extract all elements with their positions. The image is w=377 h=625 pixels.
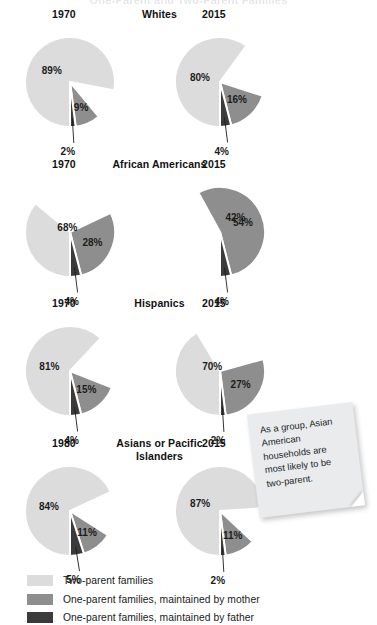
legend-item: Two-parent families bbox=[27, 572, 367, 589]
row-header: 1970Hispanics2015 bbox=[12, 297, 317, 321]
year-label-left: 1970 bbox=[52, 158, 76, 170]
group-name-label: Whites bbox=[107, 8, 212, 21]
pie-chart-container: 81%15%4% bbox=[18, 321, 150, 433]
pie-label-mother: 15% bbox=[76, 384, 96, 395]
legend-label: Two-parent families bbox=[63, 575, 153, 586]
pie-label-two-parent: 81% bbox=[39, 361, 59, 372]
legend: Two-parent familiesOne-parent families, … bbox=[27, 572, 367, 625]
pie-chart: 81%15%4% bbox=[18, 321, 150, 433]
pie-chart: 89%9%2% bbox=[18, 32, 150, 144]
chart-row: 1970Whites201589%9%2%80%16%4% bbox=[0, 8, 377, 142]
legend-swatch-mother bbox=[27, 594, 53, 605]
pie-chart: 84%11%5% bbox=[18, 461, 150, 573]
year-label-right: 2015 bbox=[202, 437, 226, 449]
row-header: 1970Whites2015 bbox=[12, 8, 317, 32]
legend-label: One-parent families, maintained by mothe… bbox=[63, 594, 260, 605]
pie-chart-container: 42%54%4% bbox=[168, 182, 300, 294]
sticky-note: As a group, Asian American households ar… bbox=[247, 402, 365, 518]
pie-label-two-parent: 70% bbox=[202, 361, 222, 372]
page-title: One-Parent and Two-Parent Families bbox=[0, 0, 377, 6]
pie-chart-container: 68%28%4% bbox=[18, 182, 150, 294]
year-label-right: 2015 bbox=[202, 8, 226, 20]
pie-label-mother: 28% bbox=[82, 237, 102, 248]
pie-label-two-parent: 80% bbox=[190, 72, 210, 83]
chart-row: 1970African Americans201568%28%4%42%54%4… bbox=[0, 158, 377, 292]
pie-slice-mother bbox=[198, 187, 265, 276]
group-name-label: Asians or Pacific Islanders bbox=[107, 437, 212, 462]
legend-swatch-two_parent bbox=[27, 575, 53, 586]
pie-label-two-parent: 68% bbox=[57, 222, 77, 233]
pie-chart-container: 80%16%4% bbox=[168, 32, 300, 144]
legend-label: One-parent families, maintained by fathe… bbox=[63, 612, 254, 623]
pie-label-mother: 11% bbox=[223, 530, 243, 541]
pie-pair: 89%9%2%80%16%4% bbox=[0, 32, 377, 142]
sticky-note-text: As a group, Asian American households ar… bbox=[259, 417, 333, 489]
infographic-root: One-Parent and Two-Parent Families 1970W… bbox=[0, 0, 377, 625]
pie-label-father: 2% bbox=[61, 146, 76, 157]
legend-item: One-parent families, maintained by mothe… bbox=[27, 591, 367, 608]
pie-label-father: 4% bbox=[214, 146, 229, 157]
pie-pair: 68%28%4%42%54%4% bbox=[0, 182, 377, 292]
year-label-right: 2015 bbox=[202, 297, 226, 309]
row-header: 1970African Americans2015 bbox=[12, 158, 317, 182]
pie-label-mother: 11% bbox=[77, 527, 97, 538]
pie-label-mother: 9% bbox=[74, 102, 89, 113]
year-label-left: 1970 bbox=[52, 8, 76, 20]
year-label-right: 2015 bbox=[202, 158, 226, 170]
group-name-label: Hispanics bbox=[107, 297, 212, 310]
group-name-label: African Americans bbox=[107, 158, 212, 171]
year-label-left: 1980 bbox=[52, 437, 76, 449]
year-label-left: 1970 bbox=[52, 297, 76, 309]
pie-chart: 42%54%4% bbox=[168, 182, 300, 294]
pie-label-two-parent: 89% bbox=[42, 65, 62, 76]
pie-label-mother: 54% bbox=[233, 217, 253, 228]
pie-label-two-parent: 87% bbox=[190, 498, 210, 509]
legend-item: One-parent families, maintained by fathe… bbox=[27, 609, 367, 625]
pie-label-mother: 27% bbox=[231, 379, 251, 390]
pie-chart: 80%16%4% bbox=[168, 32, 300, 144]
legend-swatch-father bbox=[27, 612, 53, 623]
pie-chart: 68%28%4% bbox=[18, 182, 150, 294]
pie-chart-container: 84%11%5% bbox=[18, 461, 150, 573]
pie-label-two-parent: 84% bbox=[39, 501, 59, 512]
pie-label-mother: 16% bbox=[227, 94, 247, 105]
pie-chart-container: 89%9%2% bbox=[18, 32, 150, 144]
